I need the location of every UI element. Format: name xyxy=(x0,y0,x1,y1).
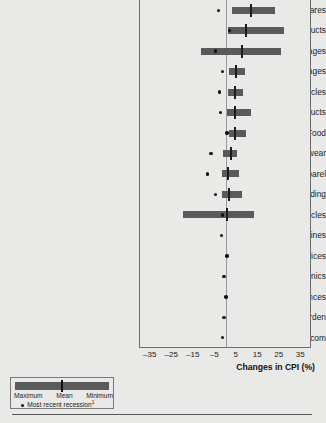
chart-row xyxy=(140,61,310,81)
chart-row xyxy=(140,287,310,307)
recession-dot xyxy=(225,131,228,134)
chart-row xyxy=(140,82,310,102)
mean-marker xyxy=(227,167,229,180)
recession-dot xyxy=(217,9,220,12)
chart-row xyxy=(140,184,310,204)
mean-marker xyxy=(245,24,247,37)
mean-marker xyxy=(235,65,237,78)
recession-dot xyxy=(225,254,228,257)
legend-dot-icon xyxy=(21,404,24,407)
chart-row xyxy=(140,143,310,163)
recession-dot xyxy=(221,336,224,339)
range-bar xyxy=(228,27,284,34)
x-axis-title: Changes in CPI (%) xyxy=(139,362,315,372)
mean-marker xyxy=(226,208,228,221)
legend-recession-entry: Most recent recession1 xyxy=(21,400,94,408)
range-bar xyxy=(229,68,245,75)
recession-dot xyxy=(209,152,212,155)
recession-dot xyxy=(221,70,224,73)
recession-dot xyxy=(218,90,221,93)
cpi-recession-chart: Airline faresHousehold productsNonalcoho… xyxy=(0,0,326,423)
mean-marker xyxy=(234,86,236,99)
chart-row xyxy=(140,246,310,266)
chart-row xyxy=(140,20,310,40)
range-bar xyxy=(183,211,254,218)
mean-marker xyxy=(234,127,236,140)
x-tick-label: 35 xyxy=(287,350,313,359)
legend-label-mean: Mean xyxy=(56,392,73,399)
recession-dot xyxy=(222,316,225,319)
chart-row xyxy=(140,164,310,184)
recession-dot xyxy=(214,193,217,196)
recession-dot xyxy=(206,172,209,175)
recession-dot xyxy=(224,295,227,298)
chart-row xyxy=(140,328,310,348)
legend-label-maximum: Maximum xyxy=(14,392,43,399)
chart-row xyxy=(140,102,310,122)
range-bar xyxy=(229,130,246,137)
range-bar xyxy=(227,109,251,116)
legend-mean-tick xyxy=(61,380,63,392)
recession-dot xyxy=(219,111,222,114)
legend-recession-label: Most recent recession xyxy=(27,401,92,408)
legend-footnote-marker: 1 xyxy=(92,400,95,405)
chart-row xyxy=(140,205,310,225)
chart-row xyxy=(140,0,310,20)
footer-divider xyxy=(12,414,312,415)
range-bar xyxy=(222,191,242,198)
mean-marker xyxy=(241,45,243,58)
mean-marker xyxy=(234,106,236,119)
plot-area xyxy=(139,0,311,348)
recession-dot xyxy=(220,234,223,237)
mean-marker xyxy=(228,188,230,201)
chart-row xyxy=(140,41,310,61)
range-bar xyxy=(232,7,275,14)
mean-marker xyxy=(230,147,232,160)
chart-row xyxy=(140,225,310,245)
mean-marker xyxy=(250,4,252,17)
chart-row xyxy=(140,266,310,286)
legend-range-labels: Maximum Mean Minimum xyxy=(14,392,113,399)
range-bar xyxy=(228,89,243,96)
recession-dot xyxy=(214,49,217,52)
chart-legend: Maximum Mean Minimum Most recent recessi… xyxy=(10,377,114,409)
recession-dot xyxy=(222,275,225,278)
legend-label-minimum: Minimum xyxy=(86,392,113,399)
range-bar xyxy=(222,170,239,177)
chart-row xyxy=(140,123,310,143)
chart-row xyxy=(140,307,310,327)
